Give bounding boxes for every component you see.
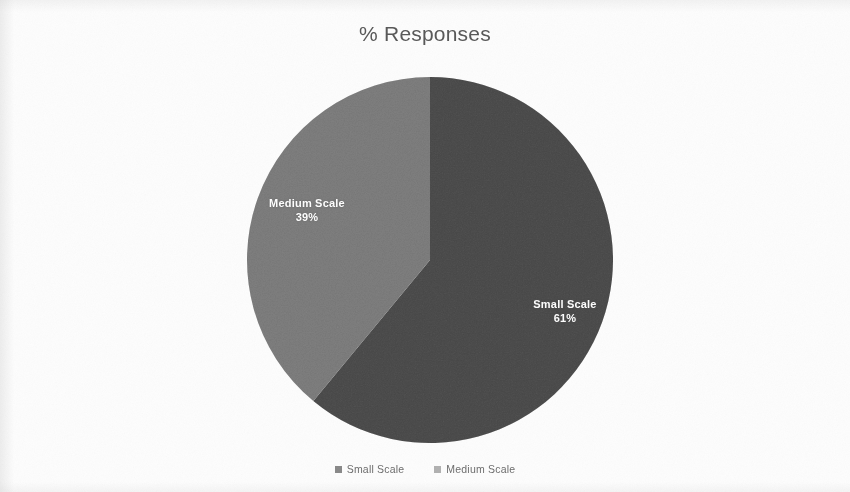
- pie-label-medium-scale-value: 39%: [232, 210, 382, 224]
- pie-chart-svg: [247, 77, 613, 443]
- legend-label-medium-scale: Medium Scale: [446, 463, 515, 475]
- legend-item-medium-scale: Medium Scale: [434, 463, 515, 475]
- legend-label-small-scale: Small Scale: [347, 463, 405, 475]
- chart-legend: Small Scale Medium Scale: [0, 463, 850, 475]
- pie-label-small-scale-value: 61%: [492, 311, 638, 325]
- pie-chart: [247, 77, 613, 443]
- pie-label-small-scale-name: Small Scale: [492, 297, 638, 311]
- pie-label-medium-scale-name: Medium Scale: [232, 196, 382, 210]
- chart-page: % Responses: [0, 0, 850, 492]
- pie-label-small-scale: Small Scale 61%: [492, 297, 638, 325]
- pie-label-medium-scale: Medium Scale 39%: [232, 196, 382, 224]
- legend-item-small-scale: Small Scale: [335, 463, 405, 475]
- legend-swatch-icon-medium-scale: [434, 466, 441, 473]
- page-title: % Responses: [0, 22, 850, 46]
- legend-swatch-icon-small-scale: [335, 466, 342, 473]
